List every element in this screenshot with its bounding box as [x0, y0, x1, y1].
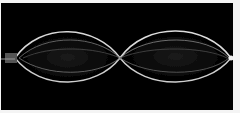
standing-wave-photo — [1, 3, 233, 110]
left-clamp — [1, 53, 17, 63]
standing-wave-graphic — [1, 3, 233, 110]
right-lobe — [120, 31, 231, 82]
left-lobe — [15, 32, 120, 83]
